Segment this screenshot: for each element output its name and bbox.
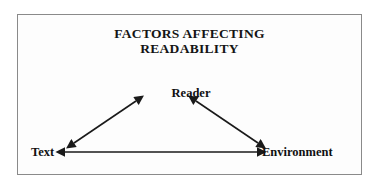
- node-reader: Reader: [0, 86, 382, 101]
- diagram-canvas: FACTORS AFFECTING READABILITY Reader Tex…: [0, 0, 382, 188]
- title-line-2: READABILITY: [17, 41, 362, 56]
- node-environment: Environment: [262, 145, 333, 160]
- diagram-title: FACTORS AFFECTING READABILITY: [17, 26, 362, 56]
- node-text: Text: [31, 145, 54, 160]
- title-line-1: FACTORS AFFECTING: [17, 26, 362, 41]
